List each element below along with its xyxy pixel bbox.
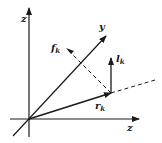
oblique-axis-label: y [98,21,106,32]
f-label: fk [50,42,60,55]
r-extension-dashed [111,80,155,93]
l-label: lk [116,53,125,66]
vertical-axis-label: z [20,13,27,24]
horizontal-axis-label: z [126,122,133,133]
r-label: rk [95,100,105,113]
f-arrowhead-icon [66,48,74,54]
vector-diagram: z y z fk lk rk [0,0,162,143]
f-vector-dashed [68,50,111,93]
